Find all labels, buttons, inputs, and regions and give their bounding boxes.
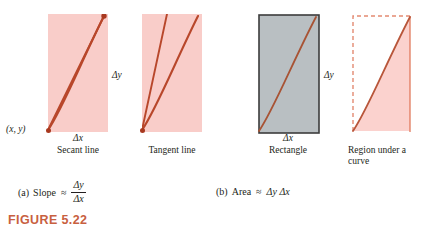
subcaption-b-expression: Δy Δx [267,186,290,197]
panel-secant-line [48,14,108,132]
fraction-denominator: Δx [71,194,85,205]
subcaption-a-index: (a) [18,187,29,198]
figure-number-label: FIGURE 5.22 [8,213,87,227]
panel-tangent-line [142,14,202,132]
subcaption-b-word: Area [232,186,251,197]
subcaption-b-index: (b) [216,186,228,197]
tangent-line-graphic [142,14,202,132]
delta-x-label-rectangle: Δx [258,133,318,144]
subcaption-a: (a) Slope ≈ Δy Δx [18,180,86,204]
slope-fraction: Δy Δx [71,180,85,204]
panel-rectangle [258,14,318,132]
caption-region-under-curve: Region under a curve [348,145,416,166]
region-under-curve-graphic [352,14,414,134]
subcaption-b: (b) Area ≈ Δy Δx [216,186,290,197]
caption-secant-line: Secant line [43,145,113,156]
caption-tangent-line: Tangent line [137,145,207,156]
point-xy-label: (x, y) [6,124,26,135]
rectangle-graphic [258,14,320,134]
subcaption-a-word: Slope [33,187,56,198]
delta-x-label-secant: Δx [48,133,108,144]
point-xy-dot-tangent [140,128,145,133]
panel-region-under-curve [352,14,412,132]
subcaption-b-approx: ≈ [255,186,263,197]
secant-line-graphic [48,14,108,132]
delta-y-label-right: Δy [324,70,334,81]
fraction-numerator: Δy [71,180,85,191]
caption-rectangle: Rectangle [253,145,323,156]
subcaption-a-approx: ≈ [60,187,68,198]
delta-y-label-left: Δy [112,70,122,81]
